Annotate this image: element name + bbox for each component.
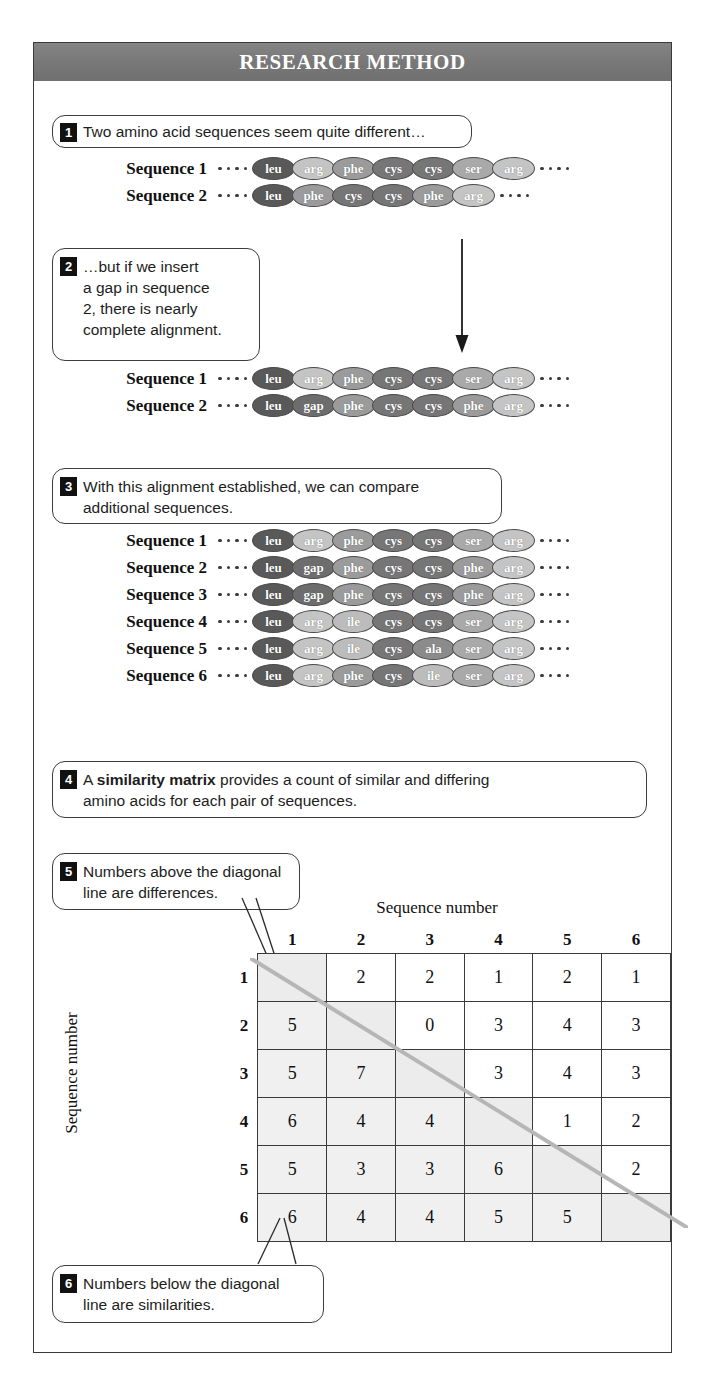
sequence-continuation-dots bbox=[535, 593, 574, 597]
residue-leu: leu bbox=[252, 664, 295, 687]
matrix-cell-r6c4[interactable]: 5 bbox=[464, 1194, 533, 1242]
dot bbox=[549, 593, 553, 597]
residue-cys: cys bbox=[372, 610, 415, 633]
matrix-cell-r1c2[interactable]: 2 bbox=[327, 954, 396, 1002]
matrix-cell-r4c5[interactable]: 1 bbox=[533, 1098, 602, 1146]
dot bbox=[557, 539, 561, 543]
matrix-cell-r6c3[interactable]: 4 bbox=[395, 1194, 464, 1242]
title-banner: RESEARCH METHOD bbox=[34, 43, 671, 81]
residue-ile: ile bbox=[332, 610, 375, 633]
residue-arg: arg bbox=[292, 637, 335, 660]
dot bbox=[244, 647, 248, 651]
callout-text-2: …but if we insert a gap in sequence 2, t… bbox=[83, 256, 222, 340]
matrix-cell-r6c6[interactable] bbox=[602, 1194, 671, 1242]
residue-ser: ser bbox=[452, 610, 495, 633]
dot bbox=[540, 539, 544, 543]
sequence-row-label: Sequence 4 bbox=[34, 612, 213, 632]
matrix-col-header-6: 6 bbox=[602, 923, 671, 954]
dot bbox=[526, 194, 530, 198]
matrix-cell-r3c2[interactable]: 7 bbox=[327, 1050, 396, 1098]
matrix-cell-r6c5[interactable]: 5 bbox=[533, 1194, 602, 1242]
residue-phe: phe bbox=[452, 556, 495, 579]
matrix-cell-r2c2[interactable] bbox=[327, 1002, 396, 1050]
sequence-row: Sequence 1leuargphecyscysserarg bbox=[34, 156, 671, 181]
matrix-cell-r6c2[interactable]: 4 bbox=[327, 1194, 396, 1242]
residue-cys: cys bbox=[372, 583, 415, 606]
matrix-cell-r1c1[interactable] bbox=[258, 954, 327, 1002]
matrix-col-header-3: 3 bbox=[395, 923, 464, 954]
callout-step-1: 1 Two amino acid sequences seem quite di… bbox=[52, 115, 472, 148]
matrix-row: 250343 bbox=[217, 1002, 671, 1050]
dot bbox=[235, 566, 239, 570]
dot bbox=[557, 566, 561, 570]
matrix-header-row: 123456 bbox=[217, 923, 671, 954]
matrix-cell-r1c5[interactable]: 2 bbox=[533, 954, 602, 1002]
dot bbox=[227, 593, 231, 597]
matrix-cell-r3c5[interactable]: 4 bbox=[533, 1050, 602, 1098]
matrix-cell-r5c4[interactable]: 6 bbox=[464, 1146, 533, 1194]
sequence-continuation-dots bbox=[535, 404, 574, 408]
residue-arg: arg bbox=[492, 583, 535, 606]
step-badge-4: 4 bbox=[60, 770, 77, 789]
matrix-cell-r5c6[interactable]: 2 bbox=[602, 1146, 671, 1194]
matrix-cell-r1c3[interactable]: 2 bbox=[395, 954, 464, 1002]
residue-ser: ser bbox=[452, 157, 495, 180]
residue-cys: cys bbox=[412, 157, 455, 180]
matrix-cell-r5c5[interactable] bbox=[533, 1146, 602, 1194]
callout-step-4: 4 A similarity matrix provides a count o… bbox=[52, 761, 647, 818]
residue-gap: gap bbox=[292, 394, 335, 417]
matrix-cell-r4c1[interactable]: 6 bbox=[258, 1098, 327, 1146]
residue-arg: arg bbox=[492, 394, 535, 417]
matrix-cell-r3c3[interactable] bbox=[395, 1050, 464, 1098]
dot bbox=[566, 377, 570, 381]
residue-ile: ile bbox=[332, 637, 375, 660]
similarity-matrix: Sequence number Sequence number 123456 1… bbox=[34, 888, 671, 1288]
residue-ser: ser bbox=[452, 367, 495, 390]
residue-phe: phe bbox=[332, 556, 375, 579]
matrix-cell-r3c4[interactable]: 3 bbox=[464, 1050, 533, 1098]
residue-phe: phe bbox=[412, 184, 455, 207]
sequence-row: Sequence 4leuargilecyscysserarg bbox=[34, 609, 671, 634]
matrix-cell-r1c4[interactable]: 1 bbox=[464, 954, 533, 1002]
dot bbox=[557, 593, 561, 597]
matrix-cell-r2c6[interactable]: 3 bbox=[602, 1002, 671, 1050]
matrix-row-header-2: 2 bbox=[217, 1002, 258, 1050]
residue-chain: leuargphecysileserarg bbox=[252, 664, 535, 687]
matrix-cell-r3c6[interactable]: 3 bbox=[602, 1050, 671, 1098]
dot bbox=[244, 593, 248, 597]
matrix-cell-r5c3[interactable]: 3 bbox=[395, 1146, 464, 1194]
matrix-cell-r3c1[interactable]: 5 bbox=[258, 1050, 327, 1098]
dot bbox=[549, 377, 553, 381]
dot bbox=[235, 593, 239, 597]
dot bbox=[566, 566, 570, 570]
sequence-continuation-dots bbox=[213, 377, 252, 381]
sequence-row: Sequence 2leugapphecyscysphearg bbox=[34, 555, 671, 580]
dot bbox=[218, 404, 222, 408]
matrix-cell-r5c1[interactable]: 5 bbox=[258, 1146, 327, 1194]
matrix-cell-r2c1[interactable]: 5 bbox=[258, 1002, 327, 1050]
residue-cys: cys bbox=[372, 367, 415, 390]
residue-leu: leu bbox=[252, 394, 295, 417]
matrix-cell-r5c2[interactable]: 3 bbox=[327, 1146, 396, 1194]
callout-step-2: 2 …but if we insert a gap in sequence 2,… bbox=[52, 248, 260, 361]
sequence-continuation-dots bbox=[535, 620, 574, 624]
dot bbox=[540, 593, 544, 597]
sequence-continuation-dots bbox=[213, 167, 252, 171]
dot bbox=[235, 620, 239, 624]
matrix-cell-r4c6[interactable]: 2 bbox=[602, 1098, 671, 1146]
dot bbox=[244, 377, 248, 381]
matrix-cell-r4c3[interactable]: 4 bbox=[395, 1098, 464, 1146]
residue-arg: arg bbox=[292, 157, 335, 180]
matrix-cell-r2c5[interactable]: 4 bbox=[533, 1002, 602, 1050]
dot bbox=[227, 167, 231, 171]
residue-phe: phe bbox=[332, 157, 375, 180]
matrix-cell-r4c2[interactable]: 4 bbox=[327, 1098, 396, 1146]
matrix-cell-r1c6[interactable]: 1 bbox=[602, 954, 671, 1002]
matrix-cell-r2c3[interactable]: 0 bbox=[395, 1002, 464, 1050]
step-badge-5: 5 bbox=[60, 862, 77, 881]
matrix-cell-r2c4[interactable]: 3 bbox=[464, 1002, 533, 1050]
residue-phe: phe bbox=[332, 664, 375, 687]
matrix-cell-r4c4[interactable] bbox=[464, 1098, 533, 1146]
sequence-row-label: Sequence 2 bbox=[34, 396, 213, 416]
residue-cys: cys bbox=[372, 157, 415, 180]
